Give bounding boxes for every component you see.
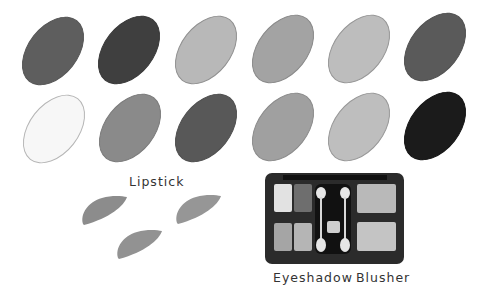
eyeshadow-pan <box>294 184 312 212</box>
color-swatch <box>391 1 478 93</box>
color-swatch <box>162 4 249 96</box>
color-swatch <box>239 3 326 95</box>
blusher-label: Blusher <box>356 270 410 285</box>
color-swatch <box>315 81 402 173</box>
lipstick-smear <box>174 193 224 227</box>
eyeshadow-pan <box>274 184 292 212</box>
color-swatch <box>315 3 402 95</box>
sponge-applicator-icon <box>315 187 327 253</box>
lipstick-smear <box>80 194 130 228</box>
sponge-applicator-icon <box>339 187 351 253</box>
color-swatch <box>162 82 249 174</box>
eyeshadow-pan <box>274 223 292 251</box>
eyeshadow-label: Eyeshadow <box>273 270 353 285</box>
blusher-pan <box>357 184 396 213</box>
blusher-pan <box>357 222 396 251</box>
color-swatch <box>85 4 172 96</box>
color-swatch <box>239 81 326 173</box>
lipstick-smear <box>115 228 165 262</box>
lipstick-label: Lipstick <box>129 174 184 189</box>
color-swatch <box>10 83 97 175</box>
color-swatch <box>9 5 96 97</box>
color-swatch <box>86 82 173 174</box>
makeup-palette <box>265 173 404 264</box>
color-swatch <box>391 80 478 172</box>
eyeshadow-pan <box>294 223 312 251</box>
palette-top-strip <box>283 175 387 180</box>
